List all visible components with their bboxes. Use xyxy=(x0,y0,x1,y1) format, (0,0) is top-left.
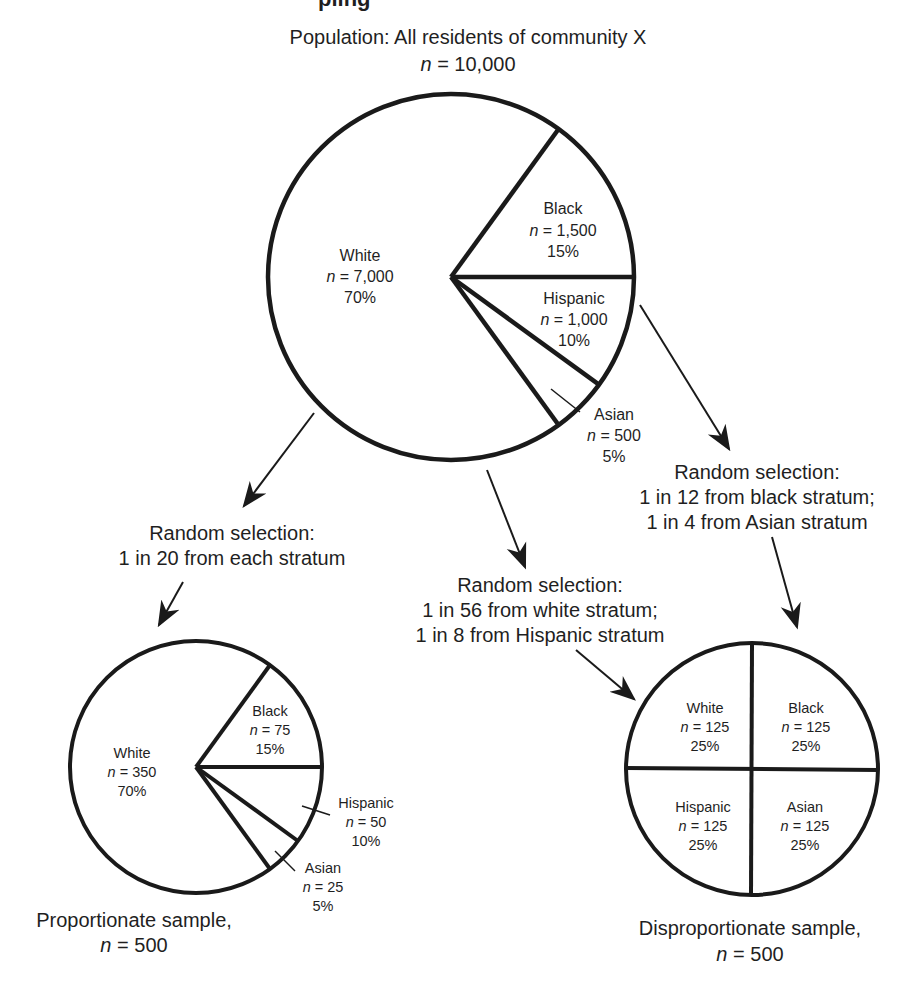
disproportionate-pie xyxy=(626,643,878,895)
svg-text:Disproportionate sample,: Disproportionate sample, xyxy=(639,917,861,939)
arrow-to-white-hispanic-rule xyxy=(487,470,525,567)
slice-label-black: Black n = 75 15% xyxy=(250,703,291,757)
svg-text:1 in 20 from each stratum: 1 in 20 from each stratum xyxy=(119,547,346,569)
svg-text:70%: 70% xyxy=(344,289,376,306)
svg-text:25%: 25% xyxy=(688,837,717,853)
svg-text:n = 500: n = 500 xyxy=(100,934,167,956)
svg-text:Asian: Asian xyxy=(787,799,823,815)
svg-text:Proportionate sample,: Proportionate sample, xyxy=(36,909,232,931)
svg-text:Asian: Asian xyxy=(305,860,341,876)
svg-text:25%: 25% xyxy=(790,837,819,853)
svg-text:Random selection:: Random selection: xyxy=(149,522,315,544)
svg-text:n = 1,000: n = 1,000 xyxy=(540,311,607,328)
svg-text:Random selection:: Random selection: xyxy=(674,461,840,483)
arrow-to-black-asian-rule xyxy=(640,305,729,449)
cropped-heading-text: pling xyxy=(318,0,371,11)
svg-text:10%: 10% xyxy=(558,332,590,349)
svg-text:1 in 12 from black stratum;: 1 in 12 from black stratum; xyxy=(639,486,875,508)
svg-text:n = 125: n = 125 xyxy=(781,818,830,834)
svg-text:Black: Black xyxy=(788,700,824,716)
rule-proportionate: Random selection: 1 in 20 from each stra… xyxy=(119,522,346,569)
svg-text:25%: 25% xyxy=(690,738,719,754)
svg-text:n = 7,000: n = 7,000 xyxy=(326,268,393,285)
svg-text:10%: 10% xyxy=(351,833,380,849)
svg-text:25%: 25% xyxy=(791,738,820,754)
proportionate-caption: Proportionate sample, n = 500 xyxy=(36,909,232,956)
cropped-heading: pling xyxy=(318,0,371,11)
arrow-to-proportionate-rule xyxy=(244,413,314,506)
svg-text:Black: Black xyxy=(543,200,583,217)
svg-text:Random selection:: Random selection: xyxy=(457,574,623,596)
svg-text:15%: 15% xyxy=(547,243,579,260)
svg-text:5%: 5% xyxy=(602,448,625,465)
svg-text:Asian: Asian xyxy=(594,406,634,423)
svg-text:n = 350: n = 350 xyxy=(108,764,157,780)
stratified-sampling-diagram: pling Population: All residents of commu… xyxy=(0,0,918,987)
svg-text:n = 75: n = 75 xyxy=(250,722,291,738)
svg-text:n = 125: n = 125 xyxy=(679,818,728,834)
svg-text:n = 1,500: n = 1,500 xyxy=(529,222,596,239)
svg-text:5%: 5% xyxy=(313,898,334,914)
slice-label-asian: Asian n = 25 5% xyxy=(303,860,344,914)
population-n: n = 10,000 xyxy=(420,53,515,75)
population-title: Population: All residents of community X xyxy=(290,26,647,48)
svg-text:n = 500: n = 500 xyxy=(716,943,783,965)
disproportionate-caption: Disproportionate sample, n = 500 xyxy=(639,917,861,965)
svg-text:n = 25: n = 25 xyxy=(303,879,344,895)
svg-text:1 in 56 from white stratum;: 1 in 56 from white stratum; xyxy=(422,599,658,621)
svg-text:n = 50: n = 50 xyxy=(346,814,387,830)
svg-text:1 in 4 from Asian stratum: 1 in 4 from Asian stratum xyxy=(646,511,867,533)
slice-label-hispanic: Hispanic n = 50 10% xyxy=(338,795,394,849)
svg-text:White: White xyxy=(340,247,381,264)
svg-text:Black: Black xyxy=(252,703,288,719)
svg-text:Hispanic: Hispanic xyxy=(338,795,394,811)
rule-black-asian: Random selection: 1 in 12 from black str… xyxy=(639,461,875,533)
arrow-to-proportionate-pie xyxy=(159,582,183,625)
rule-white-hispanic: Random selection: 1 in 56 from white str… xyxy=(416,574,665,646)
svg-text:n = 125: n = 125 xyxy=(681,719,730,735)
slice-label-asian: Asian n = 500 5% xyxy=(587,406,641,465)
svg-text:70%: 70% xyxy=(117,783,146,799)
pie-divider-horizontal xyxy=(626,768,878,770)
population-pie xyxy=(268,94,634,460)
svg-text:White: White xyxy=(113,745,150,761)
svg-text:n = 125: n = 125 xyxy=(782,719,831,735)
population-header: Population: All residents of community X… xyxy=(290,26,647,75)
svg-text:White: White xyxy=(686,700,723,716)
svg-text:n = 500: n = 500 xyxy=(587,427,641,444)
svg-text:Hispanic: Hispanic xyxy=(543,290,604,307)
svg-text:Hispanic: Hispanic xyxy=(675,799,731,815)
arrow-from-black-asian-rule-to-pie xyxy=(772,537,797,627)
svg-text:1 in 8 from Hispanic stratum: 1 in 8 from Hispanic stratum xyxy=(416,624,665,646)
svg-text:15%: 15% xyxy=(255,741,284,757)
arrow-from-white-hispanic-rule-to-pie xyxy=(576,650,634,699)
